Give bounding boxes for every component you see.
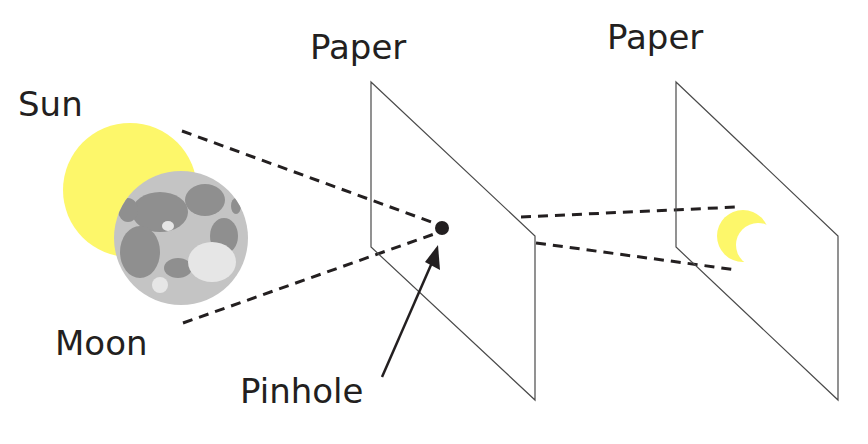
paper-1-label: Paper <box>310 30 406 64</box>
projected-crescent <box>717 210 769 262</box>
pinhole-label: Pinhole <box>240 374 363 408</box>
sun-label: Sun <box>18 87 83 121</box>
pinhole-dot[interactable] <box>435 221 449 235</box>
paper-2-label: Paper <box>607 20 703 54</box>
ray-to-crescent-top <box>521 207 737 217</box>
moon-label: Moon <box>55 326 148 360</box>
moon-disc <box>114 171 248 305</box>
paper-1-sheet <box>371 82 535 400</box>
pinhole-eclipse-diagram <box>0 0 868 444</box>
ray-to-crescent-bottom <box>536 243 737 270</box>
